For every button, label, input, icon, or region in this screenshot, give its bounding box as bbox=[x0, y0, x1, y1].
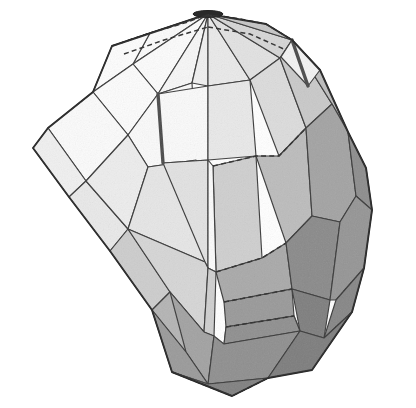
upper-face-center bbox=[208, 80, 256, 160]
mid-face-center-right bbox=[213, 156, 262, 272]
polyhedron-figure: Faceted polyhedral sphere Grayscale rend… bbox=[0, 0, 416, 408]
notch-triangle-front bbox=[158, 86, 208, 163]
apex-vertex bbox=[193, 11, 223, 18]
figure-root: Faceted polyhedral sphere Grayscale rend… bbox=[0, 0, 416, 408]
